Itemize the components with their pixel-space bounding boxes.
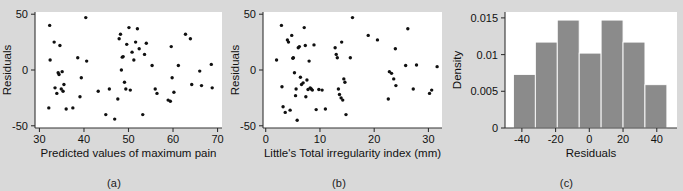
- panel-a-plot: 3040506070-50050Predicted values of maxi…: [0, 0, 228, 168]
- scatter-point: [76, 56, 79, 59]
- scatter-point: [170, 76, 173, 79]
- scatter-point: [85, 59, 88, 62]
- panel-c-plot: -40-200204000.0050.010.015ResidualsDensi…: [450, 0, 683, 168]
- scatter-point: [57, 73, 60, 76]
- x-tick-label: 20: [368, 133, 380, 145]
- panel-c-caption: (c): [450, 177, 683, 189]
- scatter-point: [280, 24, 283, 27]
- scatter-point: [336, 56, 339, 59]
- scatter-point: [435, 65, 438, 68]
- y-tick-label: 50: [244, 8, 256, 20]
- panel-b-scatter-irregularity-index: 0102030-50050Little's Total irregularity…: [228, 0, 450, 191]
- scatter-point: [387, 97, 390, 100]
- x-tick-label: 40: [651, 133, 663, 145]
- scatter-point: [136, 27, 139, 30]
- y-axis-title: Density: [451, 51, 463, 90]
- x-tick-label: 30: [33, 133, 45, 145]
- x-axis-title: Residuals: [566, 147, 617, 159]
- y-tick-label: 0: [250, 64, 256, 76]
- scatter-point: [342, 77, 345, 80]
- scatter-point: [170, 45, 173, 48]
- y-tick-label: 0.015: [470, 12, 498, 24]
- scatter-point: [340, 40, 343, 43]
- panel-b-caption: (b): [228, 177, 450, 189]
- scatter-point: [121, 55, 124, 58]
- scatter-point: [198, 69, 201, 72]
- figure-panel-group: 3040506070-50050Predicted values of maxi…: [0, 0, 683, 191]
- scatter-point: [349, 56, 352, 59]
- panel-c-histogram-residuals: -40-200204000.0050.010.015ResidualsDensi…: [450, 0, 683, 191]
- scatter-point: [117, 37, 120, 40]
- scatter-point: [303, 26, 306, 29]
- scatter-point: [134, 40, 137, 43]
- scatter-point: [154, 87, 157, 90]
- scatter-point: [394, 47, 397, 50]
- scatter-point: [190, 83, 193, 86]
- y-tick-label: 0: [492, 122, 498, 134]
- histogram-bar: [645, 85, 667, 128]
- scatter-point: [127, 26, 130, 29]
- histogram-bar: [513, 74, 535, 128]
- scatter-point: [294, 94, 297, 97]
- scatter-point: [53, 86, 56, 89]
- scatter-point: [58, 44, 61, 47]
- scatter-point: [341, 98, 344, 101]
- scatter-point: [280, 85, 283, 88]
- scatter-point: [275, 58, 278, 61]
- scatter-point: [415, 63, 418, 66]
- scatter-point: [108, 87, 111, 90]
- scatter-point: [311, 88, 314, 91]
- scatter-point: [52, 40, 55, 43]
- scatter-point: [124, 87, 127, 90]
- scatter-point: [288, 108, 291, 111]
- scatter-point: [351, 16, 354, 19]
- scatter-point: [338, 93, 341, 96]
- scatter-point: [80, 76, 83, 79]
- x-tick-label: -40: [514, 133, 530, 145]
- scatter-point: [143, 53, 146, 56]
- scatter-point: [200, 84, 203, 87]
- x-tick-label: 20: [617, 133, 629, 145]
- scatter-point: [312, 43, 315, 46]
- scatter-point: [62, 83, 65, 86]
- x-tick-label: 50: [122, 133, 134, 145]
- scatter-point: [298, 45, 301, 48]
- scatter-point: [177, 64, 180, 67]
- scatter-point: [428, 92, 431, 95]
- scatter-point: [116, 97, 119, 100]
- scatter-point: [155, 92, 158, 95]
- x-tick-label: 0: [263, 133, 269, 145]
- panel-b-plot: 0102030-50050Little's Total irregularity…: [228, 0, 450, 168]
- scatter-point: [130, 50, 133, 53]
- scatter-point: [333, 46, 336, 49]
- x-axis-title: Predicted values of maximum pain: [41, 147, 217, 159]
- scatter-point: [394, 84, 397, 87]
- scatter-point: [97, 89, 100, 92]
- scatter-point: [290, 34, 293, 37]
- histogram-bar: [601, 20, 623, 128]
- x-tick-label: 10: [314, 133, 326, 145]
- histogram-bar: [579, 53, 601, 128]
- scatter-point: [64, 107, 67, 110]
- x-axis-title: Little's Total irregularity index (mm): [264, 147, 441, 159]
- y-tick-label: 0: [22, 64, 28, 76]
- scatter-point: [294, 87, 297, 90]
- scatter-point: [172, 91, 175, 94]
- y-axis-title: Residuals: [1, 45, 13, 96]
- scatter-point: [119, 33, 122, 36]
- scatter-point: [317, 88, 320, 91]
- scatter-point: [307, 59, 310, 62]
- histogram-bar: [623, 42, 645, 128]
- panel-a-caption: (a): [0, 177, 228, 189]
- scatter-point: [48, 58, 51, 61]
- scatter-point: [287, 40, 290, 43]
- scatter-point: [335, 53, 338, 56]
- scatter-point: [430, 88, 433, 91]
- histogram-bar: [557, 20, 579, 128]
- scatter-point: [145, 42, 148, 45]
- scatter-point: [304, 95, 307, 98]
- scatter-point: [113, 117, 116, 120]
- scatter-point: [104, 113, 107, 116]
- scatter-point: [412, 87, 415, 90]
- scatter-point: [376, 38, 379, 41]
